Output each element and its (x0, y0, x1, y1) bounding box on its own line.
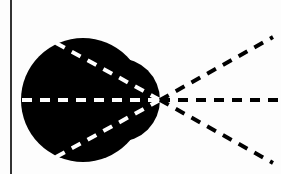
outer-ray-0 (160, 37, 273, 100)
diagram-canvas (0, 0, 281, 174)
outer-dashed-rays (160, 37, 281, 163)
ray-diagram (0, 0, 281, 174)
outer-ray-2 (160, 100, 273, 163)
